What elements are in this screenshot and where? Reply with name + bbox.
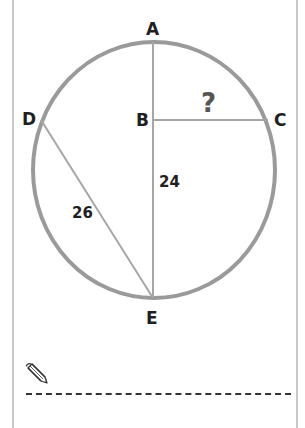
point-label-a: A (146, 19, 160, 39)
point-label-c: C (274, 110, 286, 130)
unknown-label-bc: ? (201, 88, 216, 118)
length-label-de: 26 (72, 204, 93, 222)
point-label-d: D (22, 109, 36, 129)
point-label-b: B (136, 110, 149, 130)
segment-de (41, 120, 153, 298)
length-label-be: 24 (159, 173, 180, 191)
pencil-icon (25, 363, 49, 385)
point-label-e: E (146, 308, 158, 328)
answer-line[interactable] (26, 393, 291, 395)
